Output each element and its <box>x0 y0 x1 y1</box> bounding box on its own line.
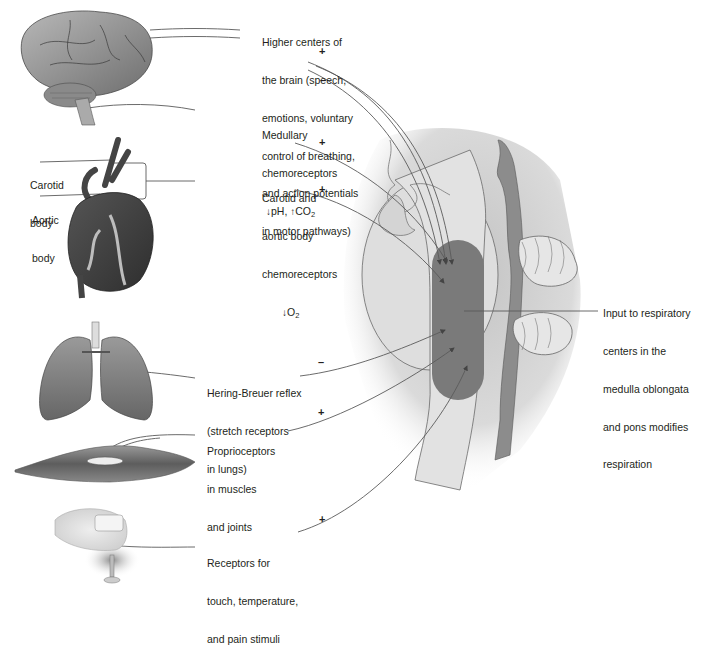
label-line: respiration <box>603 458 691 471</box>
label-line: medulla oblongata <box>603 383 691 396</box>
sign-plus: + <box>319 514 325 525</box>
label-line: and pons modifies <box>603 421 691 434</box>
heart-illustration <box>68 140 153 298</box>
label-line: body <box>32 252 59 265</box>
label-aortic-body: Aortic body <box>32 189 59 290</box>
sign-minus: – <box>320 75 326 86</box>
head-section-illustration <box>344 128 581 490</box>
sign-plus: + <box>319 137 325 148</box>
label-line: chemoreceptors <box>262 268 337 281</box>
label-line: centers in the <box>603 345 691 358</box>
lungs-illustration <box>40 322 153 420</box>
label-touch-receptors: Receptors for touch, temperature, and pa… <box>207 532 298 649</box>
label-line: Carotid and <box>262 192 337 205</box>
label-line: Receptors for <box>207 557 298 570</box>
label-line: Hering-Breuer reflex <box>207 387 302 400</box>
label-carotid-aortic-chemoreceptors: Carotid and aortic body chemoreceptors ↓… <box>262 167 337 347</box>
o2-text: O <box>287 306 295 318</box>
sign-plus: + <box>319 184 325 195</box>
label-respiratory-centers: Input to respiratory centers in the medu… <box>603 282 691 496</box>
label-line: ↓O2 <box>262 306 337 323</box>
label-line: Proprioceptors <box>207 445 275 458</box>
label-line: Aortic <box>32 214 59 227</box>
subscript: 2 <box>295 311 299 320</box>
label-line: the brain (speech, <box>262 74 358 87</box>
muscle-illustration <box>15 446 195 482</box>
sign-plus: + <box>319 46 325 57</box>
label-line: Medullary <box>262 129 337 142</box>
label-line: Higher centers of <box>262 36 358 49</box>
label-line: in muscles <box>207 483 275 496</box>
label-line: Input to respiratory <box>603 307 691 320</box>
sign-plus: + <box>318 407 324 418</box>
label-line: aortic body <box>262 230 337 243</box>
finger-pin-illustration <box>55 509 140 583</box>
sign-minus: – <box>318 357 324 368</box>
brain-illustration <box>21 11 152 125</box>
label-line: and pain stimuli <box>207 633 298 646</box>
label-line: touch, temperature, <box>207 595 298 608</box>
